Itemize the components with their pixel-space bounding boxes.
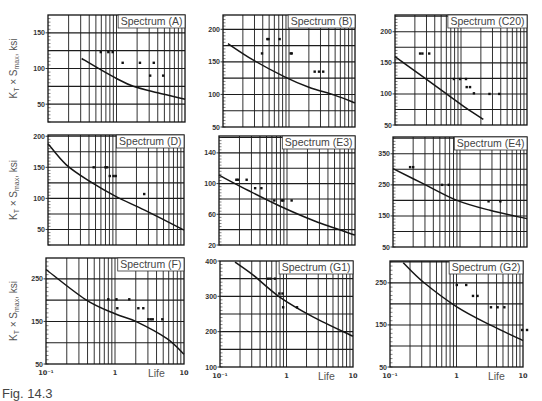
- spectrum-label: Spectrum (G2): [452, 261, 521, 273]
- y-tick-label: 100: [205, 364, 217, 371]
- data-point: [318, 70, 320, 72]
- y-tick-label: 50: [35, 361, 43, 368]
- y-label-mid: × S: [8, 69, 19, 87]
- y-tick-label: 50: [37, 101, 45, 108]
- y-tick-label: 150: [208, 58, 220, 65]
- y-tick-label: 150: [378, 212, 390, 219]
- x-tick-label: 1: [284, 372, 289, 380]
- data-point: [153, 62, 155, 64]
- data-point: [107, 51, 109, 53]
- data-point: [106, 166, 108, 168]
- spectrum-label: Spectrum (C20): [450, 15, 524, 27]
- y-tick-label: 250: [378, 181, 390, 188]
- data-point: [290, 199, 292, 201]
- panel-spectrum-b: 50100150200Spectrum (B): [208, 15, 355, 131]
- data-point: [139, 62, 141, 64]
- data-point: [428, 52, 430, 54]
- spectrum-label: Spectrum (E4): [457, 137, 525, 149]
- panel-spectrum-e4: 50150250350Spectrum (E4): [378, 137, 527, 251]
- data-point: [115, 298, 117, 300]
- data-point: [322, 70, 324, 72]
- y-tick-label: 150: [380, 59, 392, 66]
- data-point: [459, 78, 461, 80]
- y-tick-label: 150: [31, 318, 43, 325]
- y-label-s-subscript: max: [13, 177, 20, 191]
- panel-spectrum-g2: 5015025010⁻¹110LifeSpectrum (G2): [375, 261, 528, 382]
- y-tick-label: 50: [382, 244, 390, 251]
- x-axis-label: Life: [318, 370, 335, 382]
- data-point: [269, 277, 271, 279]
- spectrum-label: Spectrum (G1): [282, 261, 351, 273]
- y-tick-label: 300: [205, 293, 217, 300]
- data-point: [409, 166, 411, 168]
- data-point: [143, 193, 145, 195]
- y-tick-label: 200: [208, 26, 220, 33]
- y-tick-label: 200: [33, 133, 45, 140]
- data-point: [111, 51, 113, 53]
- test-data-points: [107, 298, 163, 320]
- data-point: [456, 284, 458, 286]
- data-point: [499, 200, 501, 202]
- data-point: [296, 306, 298, 308]
- x-axis-label: Life: [488, 370, 505, 382]
- data-point: [526, 329, 528, 331]
- data-point: [261, 52, 263, 54]
- data-point: [496, 306, 498, 308]
- data-point: [267, 277, 269, 279]
- y-tick-label: 50: [384, 122, 392, 129]
- data-point: [100, 51, 102, 53]
- test-data-points: [100, 51, 165, 77]
- data-point: [281, 292, 283, 294]
- y-tick-label: 50: [37, 226, 45, 233]
- data-point: [487, 200, 489, 202]
- y-label-mid: × S: [8, 312, 19, 330]
- vertical-gridlines: [67, 258, 181, 364]
- data-point: [274, 277, 276, 279]
- test-data-points: [93, 166, 146, 195]
- data-point: [93, 166, 95, 168]
- x-tick-label: 10⁻¹: [382, 372, 397, 380]
- data-point: [162, 74, 164, 76]
- y-axis-label: KT × Smax, ksi: [8, 281, 20, 341]
- panel-spectrum-d: 50100150200KT × Smax, ksiSpectrum (D): [8, 133, 184, 245]
- data-point: [152, 318, 154, 320]
- data-point: [128, 298, 130, 300]
- data-point: [237, 179, 239, 181]
- spectrum-label: Spectrum (F): [120, 258, 181, 270]
- y-tick-label: 150: [33, 29, 45, 36]
- x-tick-label: 1: [454, 372, 459, 380]
- y-tick-label: 100: [33, 195, 45, 202]
- spectrum-label: Spectrum (E3): [285, 136, 353, 148]
- y-label-s-subscript: max: [13, 56, 20, 70]
- vertical-gridlines: [410, 261, 520, 367]
- data-point: [282, 199, 284, 201]
- data-point: [115, 175, 117, 177]
- data-point: [465, 86, 467, 88]
- y-tick-label: 60: [208, 211, 216, 218]
- spectrum-label: Spectrum (B): [291, 15, 353, 27]
- panel-spectrum-g1: 10020030040010⁻¹110LifeSpectrum (G1): [205, 258, 358, 383]
- y-label-unit: , ksi: [8, 160, 19, 178]
- y-label-s-subscript: max: [13, 298, 20, 312]
- x-tick-label: 10: [518, 372, 528, 380]
- y-tick-label: 150: [375, 321, 387, 328]
- data-point: [245, 179, 247, 181]
- data-point: [273, 199, 275, 201]
- data-point: [142, 307, 144, 309]
- data-point: [453, 78, 455, 80]
- y-tick-label: 400: [205, 258, 217, 265]
- data-point: [137, 307, 139, 309]
- y-tick-label: 50: [212, 124, 220, 131]
- y-tick-label: 100: [33, 65, 45, 72]
- x-axis-label: Life: [148, 367, 165, 379]
- x-tick-label: 1: [113, 369, 118, 377]
- data-point: [109, 175, 111, 177]
- y-tick-label: 200: [205, 328, 217, 335]
- data-point: [498, 93, 500, 95]
- spectrum-label: Spectrum (D): [119, 135, 181, 147]
- test-data-points: [456, 284, 529, 331]
- x-tick-label: 10⁻¹: [38, 369, 53, 377]
- data-point: [149, 74, 151, 76]
- y-tick-label: 100: [208, 91, 220, 98]
- panel-spectrum-c20: 50100150200Spectrum (C20): [380, 15, 527, 129]
